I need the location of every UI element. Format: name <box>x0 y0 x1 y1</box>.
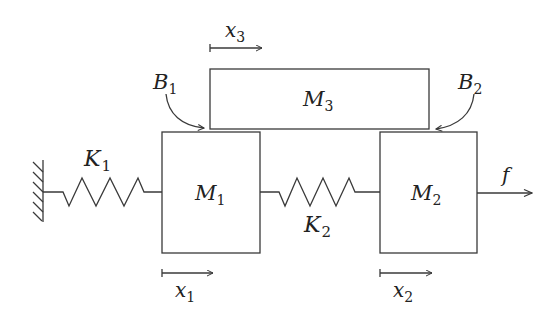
diagram-canvas: K1 M3 M1 K2 M2 f B1 B2 x3 x1 x2 <box>0 0 560 314</box>
displacement-x1-arrow <box>162 269 213 277</box>
damper-b2-pointer <box>436 94 474 129</box>
displacement-x2-arrow <box>380 269 432 277</box>
displacement-x3-label: x3 <box>225 18 245 45</box>
damper-b1-label: B1 <box>152 70 177 97</box>
spring-k1 <box>43 178 162 206</box>
displacement-x1-label: x1 <box>175 278 195 305</box>
spring-k1-label: K1 <box>83 146 111 175</box>
displacement-x3-arrow <box>210 44 262 52</box>
displacement-x2-label: x2 <box>393 278 413 305</box>
spring-k2 <box>260 178 380 206</box>
damper-b1-pointer <box>166 94 204 128</box>
damper-b2-label: B2 <box>457 70 482 97</box>
force-label: f <box>500 163 513 187</box>
spring-k2-label: K2 <box>303 212 331 241</box>
fixed-wall <box>33 160 43 222</box>
